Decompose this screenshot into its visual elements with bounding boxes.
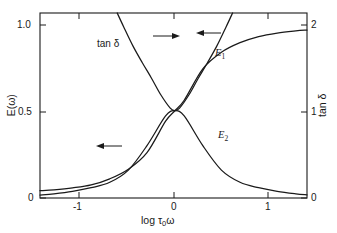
curves-group — [40, 13, 307, 195]
x-tick-label-1: 1 — [265, 202, 271, 212]
plot-frame — [40, 13, 307, 198]
curve-label-e1-sub: 1 — [221, 52, 225, 61]
curve-e2 — [40, 111, 307, 195]
y-axis-right-title: tan δ — [317, 83, 328, 127]
figure-container: -1 0 1 0 0.5 1.0 0 1 2 E(ω) tan δ log τ0… — [0, 0, 337, 233]
x-axis-title: log τ0ω — [141, 215, 174, 227]
e2-arrow-icon — [96, 143, 122, 149]
curve-label-e1: E1 — [215, 48, 225, 61]
curve-label-e2: E2 — [218, 130, 228, 143]
x-tick-label-0: 0 — [171, 202, 177, 212]
x-axis-title-pre: log — [141, 214, 158, 226]
x-axis-title-omega: ω — [166, 214, 174, 226]
curve-tan-delta — [117, 13, 232, 111]
y-left-tick-label-05: 0.5 — [18, 107, 32, 117]
y-right-tick-label-2: 2 — [311, 20, 317, 30]
y-axis-right-ticks — [301, 25, 307, 198]
y-axis-left-title: E(ω) — [6, 83, 17, 127]
y-left-tick-label-0: 0 — [28, 193, 34, 203]
x-tick-label-neg1: -1 — [73, 202, 82, 212]
y-right-tick-label-0: 0 — [311, 193, 317, 203]
tan-delta-arrow-icon — [153, 33, 180, 39]
y-axis-left-ticks — [40, 25, 46, 198]
plot-canvas — [0, 0, 337, 233]
e1-arrow-icon — [196, 30, 221, 36]
y-left-tick-label-10: 1.0 — [17, 20, 31, 30]
curve-label-e2-sub: 2 — [224, 134, 228, 143]
tan-delta-curve-label: tan δ — [97, 39, 119, 49]
